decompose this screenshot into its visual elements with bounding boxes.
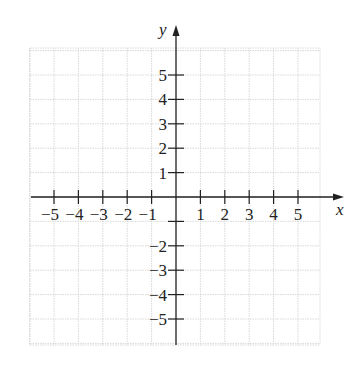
x-tick-label: −3 — [90, 205, 108, 224]
y-tick-label: −5 — [149, 310, 167, 329]
y-tick-label: 4 — [159, 90, 168, 109]
x-tick-label: −1 — [139, 205, 157, 224]
y-tick-label: 1 — [159, 164, 168, 183]
x-tick-label: −2 — [114, 205, 132, 224]
y-tick-label: −3 — [149, 261, 167, 280]
x-tick-label: 1 — [196, 205, 205, 224]
x-tick-label: −5 — [41, 205, 59, 224]
y-tick-label: 3 — [159, 115, 168, 134]
x-tick-label: 5 — [294, 205, 303, 224]
x-tick-label: 4 — [269, 205, 278, 224]
x-tick-label: −4 — [65, 205, 84, 224]
y-tick-label: −2 — [149, 237, 167, 256]
coordinate-plane: −5−4−3−2−11234554321−2−3−4−5xy — [0, 0, 360, 372]
y-tick-label: 5 — [159, 66, 168, 85]
x-axis-label: x — [335, 200, 344, 219]
x-tick-label: 3 — [245, 205, 254, 224]
y-tick-label: 2 — [159, 139, 168, 158]
y-axis-arrow-icon — [173, 25, 180, 36]
y-tick-label: −4 — [149, 286, 168, 305]
y-axis-label: y — [157, 20, 167, 39]
x-tick-label: 2 — [221, 205, 230, 224]
